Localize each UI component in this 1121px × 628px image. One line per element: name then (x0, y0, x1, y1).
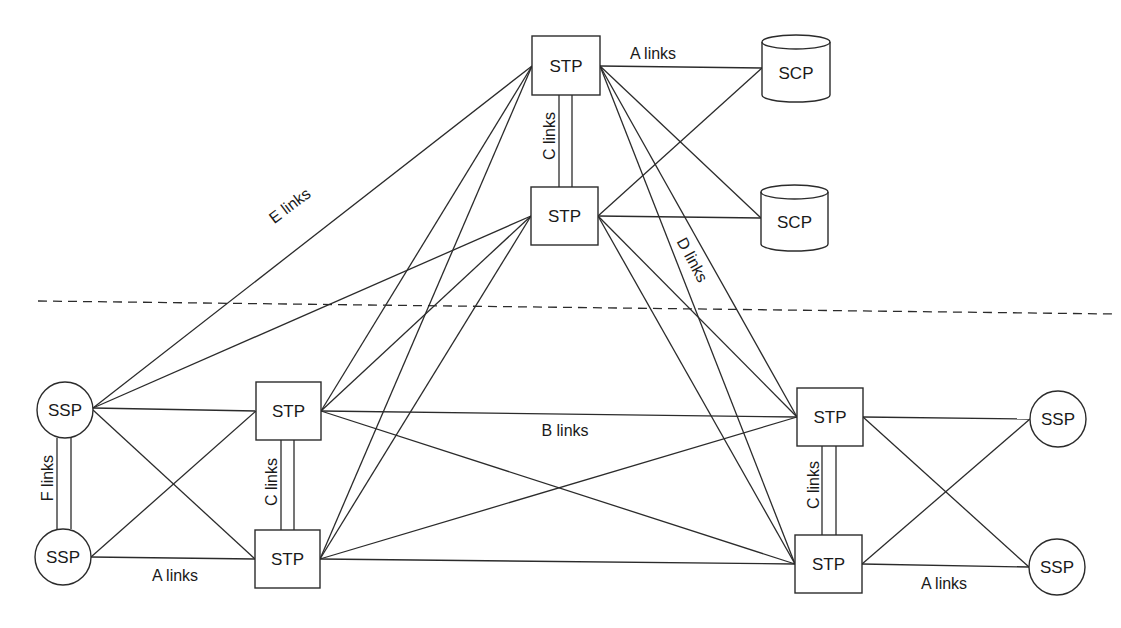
d-link (321, 216, 531, 411)
b-link (321, 411, 797, 417)
node-label: STP (271, 550, 304, 569)
d-link (321, 66, 532, 411)
e-link (93, 216, 531, 408)
d-link (320, 216, 531, 559)
node-ssp-l1: SSP (37, 382, 93, 438)
node-stp-r2: STP (795, 535, 862, 593)
lbl-c-top-label: C links (541, 112, 558, 160)
c-link-pair (559, 95, 572, 187)
lbl-d-label: D links (674, 235, 712, 285)
a-link (93, 408, 256, 411)
node-ssp-r2: SSP (1029, 539, 1085, 595)
node-label: SSP (46, 548, 80, 567)
a-link (598, 216, 761, 218)
lbl-c-right-label: C links (805, 461, 822, 509)
signaling-links (91, 66, 1030, 567)
node-label: SSP (1041, 410, 1075, 429)
dashed-divider (38, 301, 1115, 314)
e-link (93, 66, 532, 408)
network-divider-line (38, 301, 1115, 314)
node-label: SCP (777, 213, 812, 232)
a-link (862, 564, 1029, 567)
node-ssp-l2: SSP (35, 529, 91, 585)
a-link (598, 68, 762, 216)
node-stp-top2: STP (531, 187, 598, 245)
lbl-a-right-label: A links (921, 575, 967, 592)
link-labels: A linksC linksE linksD linksF linksC lin… (39, 45, 967, 592)
node-scp2: SCP (761, 185, 828, 251)
node-stp-top1: STP (532, 36, 600, 95)
node-label: SSP (48, 401, 82, 420)
a-link (93, 410, 255, 559)
node-label: STP (812, 555, 845, 574)
lbl-f-label: F links (39, 455, 56, 501)
lbl-a-left-label: A links (152, 567, 198, 584)
a-link (91, 557, 255, 559)
diagram-canvas: STPSTPSCPSCPSSPSSPSTPSTPSTPSTPSSPSSP A l… (0, 0, 1121, 628)
a-link (91, 411, 256, 557)
lbl-e-label: E links (266, 185, 314, 227)
node-label: STP (272, 402, 305, 421)
node-label: STP (548, 207, 581, 226)
lbl-a-top-label: A links (630, 45, 676, 62)
a-link (862, 419, 1030, 564)
c-link-pair (822, 446, 836, 535)
network-nodes: STPSTPSCPSCPSSPSSPSTPSTPSTPSTPSSPSSP (35, 35, 1086, 595)
paired-links (57, 95, 836, 535)
node-label: SSP (1040, 558, 1074, 577)
c-link-pair (281, 440, 294, 530)
d-link (320, 66, 532, 559)
node-stp-r1: STP (797, 388, 863, 446)
lbl-c-left-label: C links (263, 458, 280, 506)
node-ssp-r1: SSP (1030, 391, 1086, 447)
a-link (600, 66, 762, 68)
ss7-network-diagram: STPSTPSCPSCPSSPSSPSTPSTPSTPSTPSSPSSP A l… (0, 0, 1121, 628)
node-label: STP (549, 57, 582, 76)
f-link-pair (57, 438, 71, 529)
lbl-b-label: B links (541, 422, 588, 439)
node-label: SCP (779, 64, 814, 83)
a-link (863, 417, 1030, 419)
d-link (600, 66, 795, 564)
b-link (320, 559, 795, 564)
node-scp1: SCP (762, 35, 830, 102)
node-stp-l1: STP (256, 382, 321, 440)
node-stp-l2: STP (255, 530, 320, 588)
node-label: STP (813, 408, 846, 427)
